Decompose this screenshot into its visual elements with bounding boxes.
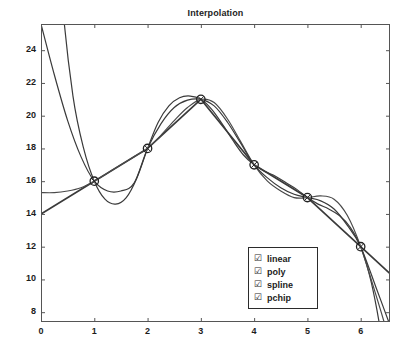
legend-item-poly[interactable]: ☑poly	[254, 265, 312, 278]
x-tick-label: 5	[295, 326, 319, 336]
y-tick-label: 18	[6, 142, 36, 152]
x-tick-label: 4	[242, 326, 266, 336]
plot-svg	[41, 24, 390, 322]
y-tick-label: 8	[6, 306, 36, 316]
checkbox-icon[interactable]: ☑	[254, 267, 265, 276]
y-tick-label: 22	[6, 77, 36, 87]
legend-item-pchip[interactable]: ☑pchip	[254, 291, 312, 304]
x-tick-label: 1	[82, 326, 106, 336]
legend-item-linear[interactable]: ☑linear	[254, 252, 312, 265]
x-tick-label: 2	[136, 326, 160, 336]
legend-item-label: linear	[265, 254, 291, 264]
y-tick-label: 14	[6, 208, 36, 218]
x-tick-label: 6	[349, 326, 373, 336]
legend-item-spline[interactable]: ☑spline	[254, 278, 312, 291]
figure-canvas: Interpolation 81012141618202224 0123456 …	[0, 0, 407, 354]
legend[interactable]: ☑linear☑poly☑spline☑pchip	[248, 247, 318, 309]
chart-title: Interpolation	[41, 8, 390, 18]
y-tick-label: 16	[6, 175, 36, 185]
legend-item-label: poly	[265, 267, 286, 277]
plot-area	[41, 24, 390, 322]
x-tick-label: 3	[189, 326, 213, 336]
legend-item-label: spline	[265, 280, 293, 290]
checkbox-icon[interactable]: ☑	[254, 280, 265, 289]
y-tick-label: 12	[6, 241, 36, 251]
checkbox-icon[interactable]: ☑	[254, 254, 265, 263]
x-tick-label: 0	[29, 326, 53, 336]
y-tick-label: 24	[6, 44, 36, 54]
y-tick-label: 10	[6, 273, 36, 283]
legend-item-label: pchip	[265, 293, 291, 303]
checkbox-icon[interactable]: ☑	[254, 293, 265, 302]
y-tick-label: 20	[6, 110, 36, 120]
